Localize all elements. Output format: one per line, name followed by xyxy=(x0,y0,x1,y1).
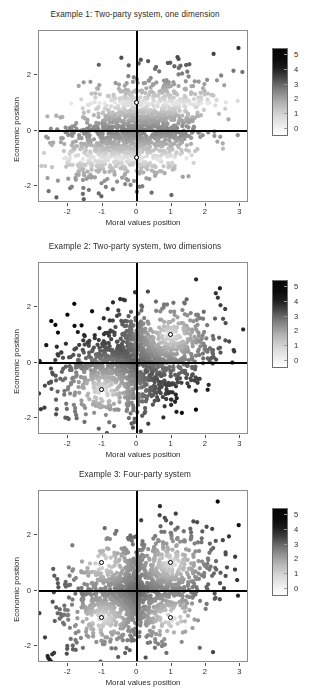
scatter-panel: Example 2: Two-party system, two dimensi… xyxy=(0,238,315,466)
colorbar-tick-label: 0 xyxy=(294,356,298,365)
colorbar-gradient xyxy=(272,280,288,368)
panel-title: Example 1: Two-party system, one dimensi… xyxy=(0,10,270,19)
x-axis-tick xyxy=(67,203,68,206)
colorbar-tick xyxy=(284,544,287,545)
x-axis-title: Moral values position xyxy=(105,678,180,687)
colorbar-tick-label: 5 xyxy=(294,282,298,291)
scatter-panel: Example 1: Two-party system, one dimensi… xyxy=(0,6,315,234)
x-axis-tick xyxy=(171,663,172,666)
x-axis-tick xyxy=(67,435,68,438)
x-axis-tick-label: 0 xyxy=(134,207,138,216)
y-axis-tick-label: 2 xyxy=(14,530,31,539)
colorbar-tick-label: 2 xyxy=(294,94,298,103)
colorbar-tick xyxy=(284,345,287,346)
density-colorbar: 543210 xyxy=(272,280,288,368)
y-axis-tick xyxy=(34,534,37,535)
x-axis-tick-label: -2 xyxy=(64,667,71,676)
density-colorbar: 543210 xyxy=(272,508,288,596)
x-axis-tick-label: 3 xyxy=(237,207,241,216)
plot-frame xyxy=(38,490,248,662)
party-position-marker xyxy=(168,560,173,565)
density-colorbar: 543210 xyxy=(272,48,288,136)
y-axis-tick xyxy=(34,130,37,131)
plot-area xyxy=(38,262,248,434)
plot-area xyxy=(38,490,248,662)
x-axis-tick xyxy=(102,435,103,438)
reference-line-vertical xyxy=(136,491,137,661)
colorbar-gradient xyxy=(272,508,288,596)
x-axis-tick xyxy=(205,663,206,666)
plot-frame xyxy=(38,262,248,434)
y-axis-tick xyxy=(34,185,37,186)
x-axis-tick-label: 0 xyxy=(134,439,138,448)
reference-line-horizontal xyxy=(39,130,247,131)
plot-frame xyxy=(38,30,248,202)
y-axis-tick xyxy=(34,74,37,75)
x-axis-tick xyxy=(67,663,68,666)
colorbar-tick xyxy=(284,316,287,317)
x-axis-tick xyxy=(205,435,206,438)
x-axis-tick xyxy=(171,435,172,438)
x-axis-tick-label: 2 xyxy=(203,667,207,676)
x-axis-tick-label: 2 xyxy=(203,439,207,448)
colorbar-tick xyxy=(284,286,287,287)
colorbar-tick xyxy=(284,573,287,574)
colorbar-tick xyxy=(284,84,287,85)
colorbar-tick-label: 5 xyxy=(294,510,298,519)
colorbar-tick-label: 4 xyxy=(294,64,298,73)
x-axis-tick-label: -1 xyxy=(98,207,105,216)
x-axis-tick xyxy=(136,203,137,206)
colorbar-tick-label: 3 xyxy=(294,79,298,88)
x-axis-tick xyxy=(102,663,103,666)
reference-line-horizontal xyxy=(39,362,247,363)
colorbar-tick xyxy=(284,301,287,302)
colorbar-tick-label: 3 xyxy=(294,539,298,548)
colorbar-tick xyxy=(284,128,287,129)
x-axis-tick xyxy=(239,203,240,206)
reference-line-vertical xyxy=(136,31,137,201)
colorbar-tick-label: 4 xyxy=(294,296,298,305)
y-axis-tick-label: 2 xyxy=(14,302,31,311)
reference-line-vertical xyxy=(136,263,137,433)
party-position-marker xyxy=(168,332,173,337)
x-axis-tick-label: 1 xyxy=(168,667,172,676)
x-axis-tick xyxy=(205,203,206,206)
plot-area xyxy=(38,30,248,202)
x-axis-tick-label: 0 xyxy=(134,667,138,676)
x-axis-tick-label: 1 xyxy=(168,207,172,216)
x-axis-tick-label: -2 xyxy=(64,207,71,216)
colorbar-tick xyxy=(284,113,287,114)
x-axis-tick-label: 3 xyxy=(237,439,241,448)
x-axis-tick xyxy=(136,435,137,438)
panel-title: Example 3: Four-party system xyxy=(0,470,270,479)
voter-points xyxy=(39,491,248,662)
panel-title: Example 2: Two-party system, two dimensi… xyxy=(0,242,270,251)
x-axis-tick-label: -1 xyxy=(98,667,105,676)
y-axis-tick xyxy=(34,417,37,418)
y-axis-tick xyxy=(34,590,37,591)
colorbar-tick-label: 5 xyxy=(294,50,298,59)
y-axis-title: Economic position xyxy=(12,97,21,162)
x-axis-title: Moral values position xyxy=(105,450,180,459)
colorbar-tick xyxy=(284,330,287,331)
colorbar-tick-label: 2 xyxy=(294,326,298,335)
y-axis-title: Economic position xyxy=(12,557,21,622)
y-axis-tick-label: 2 xyxy=(14,70,31,79)
x-axis-tick-label: 3 xyxy=(237,667,241,676)
figure-root: Example 1: Two-party system, one dimensi… xyxy=(0,0,315,699)
x-axis-tick xyxy=(239,663,240,666)
colorbar-tick-label: 1 xyxy=(294,109,298,118)
colorbar-tick-label: 0 xyxy=(294,124,298,133)
colorbar-tick xyxy=(284,98,287,99)
colorbar-tick-label: 1 xyxy=(294,341,298,350)
colorbar-tick xyxy=(284,529,287,530)
colorbar-tick-label: 2 xyxy=(294,554,298,563)
y-axis-title: Economic position xyxy=(12,329,21,394)
colorbar-tick-label: 1 xyxy=(294,569,298,578)
scatter-panel: Example 3: Four-party system-2-10123-202… xyxy=(0,466,315,699)
x-axis-tick-label: -1 xyxy=(98,439,105,448)
x-axis-tick xyxy=(239,435,240,438)
x-axis-tick xyxy=(102,203,103,206)
y-axis-tick xyxy=(34,306,37,307)
y-axis-tick xyxy=(34,645,37,646)
